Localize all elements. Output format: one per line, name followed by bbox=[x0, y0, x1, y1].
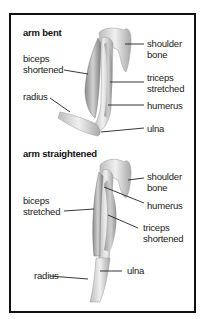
label-humerus: humerus bbox=[147, 100, 183, 111]
forearm-icon bbox=[90, 258, 110, 302]
panel-title-arm-straightened: arm straightened bbox=[23, 148, 97, 159]
label-ulna: ulna bbox=[127, 265, 144, 276]
label-biceps-shortened: biceps shortened bbox=[23, 53, 63, 75]
label-radius: radius bbox=[34, 270, 59, 281]
straight-arm-figure bbox=[90, 159, 131, 302]
label-biceps-stretched: biceps stretched bbox=[23, 195, 60, 217]
label-triceps-shortened: triceps shortened bbox=[143, 222, 183, 244]
label-triceps-stretched: triceps stretched bbox=[147, 72, 184, 94]
label-ulna: ulna bbox=[147, 123, 164, 134]
label-radius: radius bbox=[23, 91, 48, 102]
label-shoulder-bone: shoulder bone bbox=[147, 171, 182, 193]
label-shoulder-bone: shoulder bone bbox=[147, 38, 182, 60]
panel-title-arm-bent: arm bent bbox=[23, 27, 62, 38]
label-humerus: humerus bbox=[147, 200, 183, 211]
biceps-icon bbox=[85, 38, 101, 118]
